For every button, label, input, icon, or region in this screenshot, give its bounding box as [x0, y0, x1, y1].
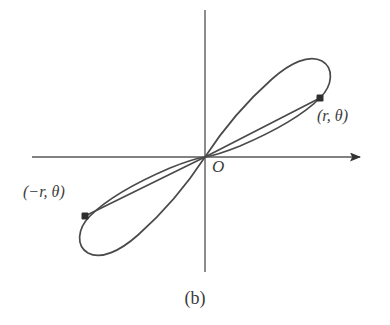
point-label-positive: (r, θ) — [317, 108, 348, 124]
figure-canvas — [0, 0, 390, 325]
radial-segment-negative — [85, 157, 205, 216]
point-marker-negative — [82, 213, 89, 220]
origin-label: O — [212, 158, 224, 175]
point-label-negative: (−r, θ) — [23, 184, 65, 200]
petal-upper-right-path — [205, 59, 330, 157]
polar-curve-figure: O (r, θ) (−r, θ) (b) — [0, 0, 390, 325]
axes-group — [32, 10, 360, 272]
figure-caption: (b) — [0, 288, 390, 309]
point-marker-positive — [317, 95, 324, 102]
petal-lower-left-path — [80, 157, 205, 255]
radial-segment-positive — [205, 98, 320, 157]
